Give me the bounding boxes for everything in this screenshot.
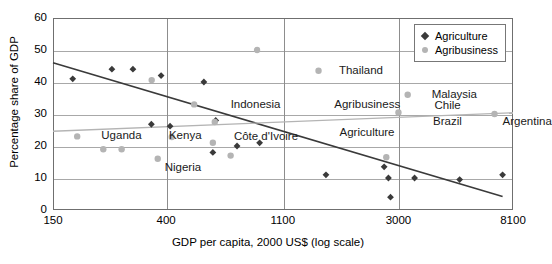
gridline-vertical [399, 19, 400, 209]
x-axis-tick-label: 150 [43, 215, 62, 227]
x-axis-title: GDP per capita, 2000 US$ (log scale) [0, 236, 536, 248]
legend-label-agriculture: Agriculture [435, 30, 488, 42]
annotation-label: Agriculture [340, 127, 395, 139]
diamond-marker-icon [421, 32, 429, 40]
y-axis-title: Percentage share of GDP [8, 12, 20, 192]
x-axis-tick-label: 3000 [386, 215, 412, 227]
circle-marker-icon [422, 47, 428, 53]
annotation-label: Uganda [101, 130, 141, 142]
y-axis-tick-label: 20 [17, 140, 47, 152]
y-axis-tick-label: 50 [17, 44, 47, 56]
annotation-label: Indonesia [231, 99, 281, 111]
annotation-label: Thailand [339, 65, 383, 77]
annotation-label: Kenya [169, 130, 202, 142]
annotation-label: Agribusiness [334, 99, 400, 111]
legend-item-agribusiness: Agribusiness [420, 43, 498, 57]
gridline-vertical [167, 19, 168, 209]
x-axis-tick-label: 400 [157, 215, 176, 227]
annotation-label: Brazil [433, 116, 462, 128]
y-axis-tick-label: 30 [17, 108, 47, 120]
annotation-label: Argentina [503, 116, 552, 128]
annotation-label: Côte d'Ivoire [234, 131, 298, 143]
y-axis-tick-label: 40 [17, 76, 47, 88]
legend-label-agribusiness: Agribusiness [435, 44, 498, 56]
x-axis-tick-label: 1100 [270, 215, 295, 227]
legend-item-agriculture: Agriculture [420, 29, 498, 43]
annotation-label: Chile [434, 100, 460, 112]
y-axis-tick-label: 10 [17, 172, 47, 184]
annotation-label: Nigeria [165, 162, 201, 174]
x-axis-tick-label: 8100 [500, 215, 526, 227]
y-axis-tick-label: 60 [17, 12, 47, 24]
gridline-vertical [284, 19, 285, 209]
chart-legend: Agriculture Agribusiness [414, 24, 506, 62]
